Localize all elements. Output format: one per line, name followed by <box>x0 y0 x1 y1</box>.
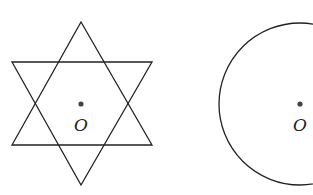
hexagram-center-dot <box>78 101 83 106</box>
diagram-canvas: O O <box>0 0 313 195</box>
circle-center-label: O <box>293 115 307 135</box>
hexagram-center-label: O <box>74 115 88 135</box>
diagram-svg: O O <box>0 0 313 195</box>
circle-center-dot <box>297 101 302 106</box>
